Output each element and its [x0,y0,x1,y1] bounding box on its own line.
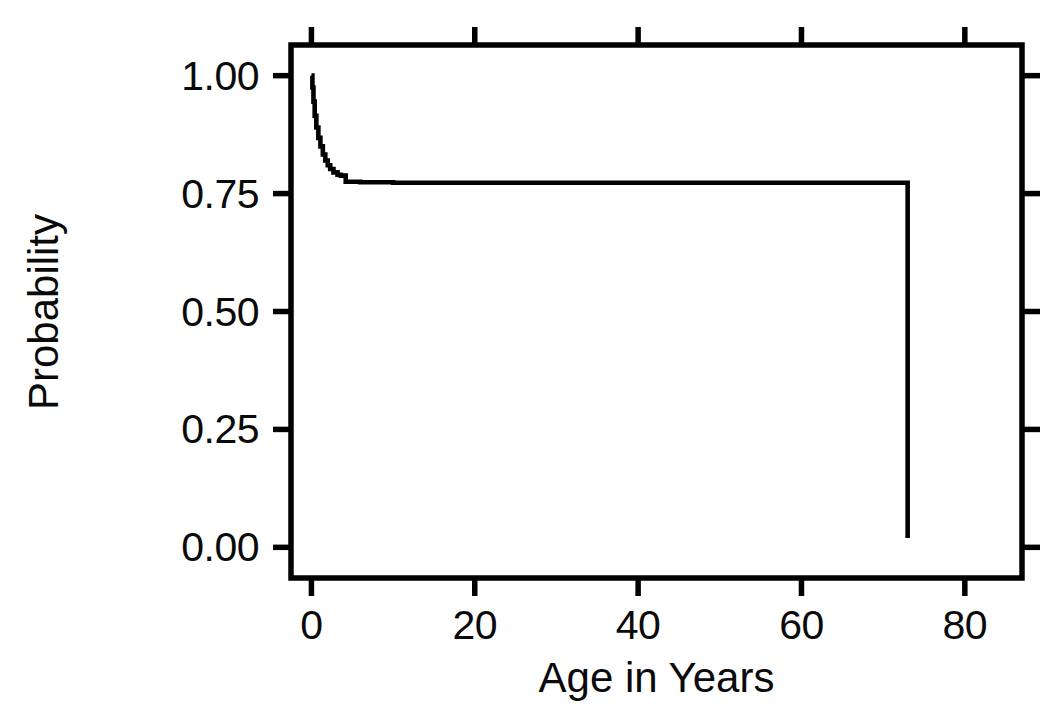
y-tick-label: 1.00 [0,52,259,99]
chart-canvas [0,0,1060,706]
x-tick-label: 40 [616,602,661,649]
x-axis-title: Age in Years [539,654,775,702]
survival-curve [311,76,907,538]
figure-container: 1.000.750.500.250.00 020406080 Probabili… [0,0,1060,706]
y-axis-title: Probability [20,213,68,409]
x-tick-label: 0 [300,602,322,649]
y-tick-label: 0.75 [0,170,259,217]
x-tick-label: 60 [779,602,824,649]
x-tick-label: 20 [452,602,497,649]
plot-frame [291,45,1022,578]
x-tick-label: 80 [943,602,988,649]
y-tick-label: 0.25 [0,406,259,453]
y-tick-label: 0.00 [0,524,259,571]
